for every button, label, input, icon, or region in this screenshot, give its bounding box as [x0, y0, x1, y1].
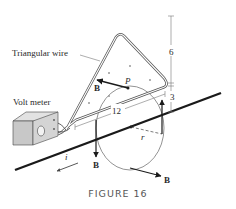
triangular-wire-leader — [80, 55, 100, 61]
current-label: i — [65, 152, 68, 162]
point-p-label: P — [124, 76, 131, 86]
dimension-base-length: 12 — [112, 106, 121, 116]
dimension-height-bottom: 3 — [170, 92, 175, 102]
radius-label: r — [141, 132, 145, 142]
field-label-bottom-left: B — [93, 160, 99, 170]
field-vector-top-left: B — [94, 80, 128, 93]
radius-line: r — [131, 127, 162, 142]
figure-caption: FIGURE 16 — [0, 188, 236, 199]
field-label-top-left: B — [94, 83, 100, 93]
volt-meter — [13, 112, 58, 145]
field-vector-bottom-left: B — [93, 120, 99, 170]
volt-meter-label: Volt meter — [13, 97, 51, 107]
figure-16-diagram: r P B B B i — [0, 0, 236, 209]
triangular-wire-label: Triangular wire — [12, 48, 68, 58]
field-label-bottom-right: B — [164, 175, 170, 185]
field-vector-bottom-right: B — [130, 168, 170, 185]
dimension-height-top: 6 — [169, 47, 174, 57]
current-arrow: i — [57, 152, 78, 171]
